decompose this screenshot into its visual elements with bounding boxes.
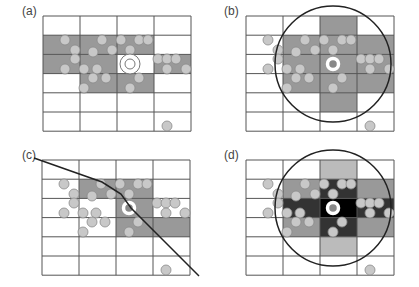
light-cell bbox=[320, 237, 357, 256]
center-particle bbox=[328, 203, 339, 214]
particle bbox=[337, 179, 347, 189]
particle bbox=[384, 208, 394, 218]
particle bbox=[295, 208, 305, 218]
particle bbox=[310, 189, 320, 199]
particle bbox=[337, 217, 347, 227]
particle bbox=[263, 179, 273, 189]
panel-d-figure bbox=[0, 0, 419, 287]
particle bbox=[300, 179, 310, 189]
particle bbox=[263, 208, 273, 218]
particle bbox=[282, 227, 292, 237]
panel-d: (d) bbox=[0, 0, 419, 287]
particle bbox=[374, 198, 384, 208]
particle bbox=[365, 208, 375, 218]
particle bbox=[328, 227, 338, 237]
particle bbox=[346, 179, 356, 189]
particle bbox=[365, 198, 375, 208]
light-cell bbox=[320, 160, 357, 179]
particle bbox=[291, 217, 301, 227]
particle bbox=[291, 191, 301, 201]
particle bbox=[282, 208, 292, 218]
particle bbox=[356, 198, 366, 208]
particle bbox=[304, 217, 314, 227]
particle bbox=[328, 189, 338, 199]
particle bbox=[319, 179, 329, 189]
particle bbox=[365, 265, 375, 275]
